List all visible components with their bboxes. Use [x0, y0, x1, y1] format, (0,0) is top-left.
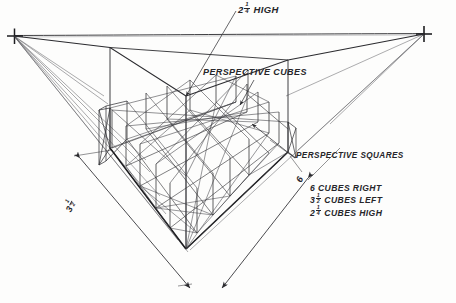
- spec1-whole: 6: [310, 183, 315, 193]
- spec2-text: CUBES LEFT: [324, 195, 382, 205]
- height-suffix: HIGH: [253, 4, 278, 15]
- spec-line-2: 312 CUBES LEFT: [310, 193, 382, 205]
- spec3-fraction: 14: [316, 205, 321, 217]
- height-whole: 2: [238, 4, 244, 15]
- height-fraction: 14: [244, 2, 250, 15]
- spec-line-1: 6 CUBES RIGHT: [310, 184, 382, 193]
- grid-base-edges: [110, 148, 288, 249]
- perspective-drawing-page: 214 HIGH PERSPECTIVE CUBES PERSPECTIVE S…: [0, 0, 456, 303]
- dimension-line-left: [74, 150, 192, 288]
- spec3-denominator: 4: [316, 211, 321, 216]
- height-callout-label: 214 HIGH: [238, 3, 279, 16]
- spec2-whole: 3: [310, 195, 315, 205]
- height-denominator: 4: [244, 9, 250, 15]
- spec-line-3: 214 CUBES HIGH: [310, 206, 382, 218]
- perspective-cubes-label: PERSPECTIVE CUBES: [203, 68, 307, 78]
- spec1-text: CUBES RIGHT: [318, 183, 382, 193]
- right-cube-column: [288, 122, 296, 158]
- cube-count-spec-block: 6 CUBES RIGHT 312 CUBES LEFT 214 CUBES H…: [310, 183, 382, 218]
- spec3-text: CUBES HIGH: [324, 207, 382, 217]
- spec3-whole: 2: [310, 207, 315, 217]
- horizon-and-vanishing-points: [7, 26, 432, 44]
- spec2-fraction: 12: [316, 193, 321, 205]
- perspective-squares-label: PERSPECTIVE SQUARES: [296, 152, 404, 161]
